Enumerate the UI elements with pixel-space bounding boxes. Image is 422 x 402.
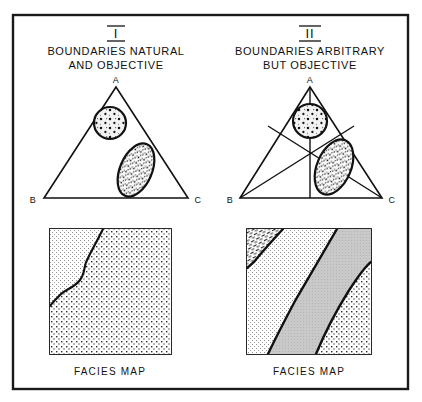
panel-2-vertex-label-a: A — [307, 75, 314, 85]
figure-canvas: I BOUNDARIES NATURAL AND OBJECTIVE A B C… — [0, 0, 422, 402]
panel-1-vertex-label-b: B — [30, 195, 37, 205]
panel-1-map-caption: FACIES MAP — [74, 366, 146, 377]
panel-2-heading-line1: BOUNDARIES ARBITRARY — [235, 45, 385, 57]
panel-1-facies-map: FACIES MAP — [50, 229, 171, 377]
panel-2-heading-line2: BUT OBJECTIVE — [263, 59, 357, 71]
panel-1-field-upper-circle — [94, 107, 126, 139]
panel-2-field-upper-circle — [293, 104, 327, 138]
figure-root: I BOUNDARIES NATURAL AND OBJECTIVE A B C… — [0, 0, 422, 402]
panel-1-heading-line1: BOUNDARIES NATURAL — [47, 45, 184, 57]
panel-2-map-caption: FACIES MAP — [273, 366, 345, 377]
panel-1-roman: I — [114, 26, 119, 41]
panel-2-roman: II — [305, 26, 314, 41]
panel-2-facies-map: FACIES MAP — [247, 229, 371, 377]
panel-2-vertex-label-b: B — [227, 195, 234, 205]
panel-1-heading-line2: AND OBJECTIVE — [68, 59, 163, 71]
panel-2-vertex-label-c: C — [389, 195, 396, 205]
panel-1-vertex-label-a: A — [113, 75, 120, 85]
panel-1-vertex-label-c: C — [195, 195, 202, 205]
